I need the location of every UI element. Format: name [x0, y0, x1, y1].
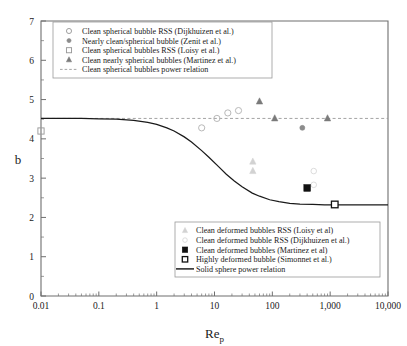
- data-point-filled-circle: [300, 125, 305, 130]
- data-point-light-triangle: [250, 158, 256, 164]
- x-tick-label: 1,000: [319, 301, 341, 311]
- data-point-filled-square: [304, 185, 311, 192]
- y-tick-label: 5: [29, 95, 34, 105]
- data-point-open-square-dark: [331, 201, 338, 208]
- legend-label: Clean spherical bubbles power relation: [82, 65, 208, 74]
- legend-marker-filled-square: [182, 247, 187, 252]
- solid-sphere-curve: [41, 118, 388, 204]
- data-point-filled-triangle: [324, 115, 330, 121]
- legend-bottom: Clean deformed bubbles RSS (Loisy et al)…: [175, 222, 380, 277]
- y-tick-label: 7: [29, 17, 34, 27]
- legend-label: Clean spherical bubbles RSS (Loisy et al…: [82, 46, 220, 55]
- data-point-open-circle: [199, 125, 205, 131]
- x-tick-label: 0.1: [93, 301, 105, 311]
- legend-label: Clean nearly spherical bubbles (Martinez…: [82, 56, 236, 65]
- legend-top: Clean spherical bubble RSS (Dijkhuizen e…: [53, 22, 272, 78]
- x-tick-label: 10: [210, 301, 220, 311]
- data-point-open-circle: [235, 107, 241, 113]
- y-tick-label: 0: [29, 292, 34, 302]
- legend-label: Clean deformed bubble RSS (Dijkhuizen et…: [196, 236, 350, 245]
- data-point-light-circle: [311, 182, 317, 188]
- y-tick-label: 6: [29, 56, 34, 66]
- legend-label: Nearly clean/spherical bubble (Zenit et …: [82, 37, 221, 46]
- data-lines: [41, 118, 388, 204]
- x-tick-label: 100: [265, 301, 280, 311]
- legend-label: Clean deformed bubbles (Martinez et al): [196, 246, 328, 255]
- y-axis-title: b: [15, 152, 22, 167]
- legend-label: Clean deformed bubbles RSS (Loisy et al): [196, 226, 333, 235]
- legend-label: Clean spherical bubble RSS (Dijkhuizen e…: [82, 27, 234, 36]
- y-tick-label: 1: [29, 252, 34, 262]
- chart-figure: 0.010.11101001,00010,00001234567bRepClea…: [0, 0, 407, 346]
- data-point-filled-triangle: [256, 98, 262, 104]
- legend-marker-filled-circle: [67, 39, 71, 43]
- y-tick-label: 3: [29, 174, 34, 184]
- legend-label: Solid sphere power relation: [196, 265, 285, 274]
- data-point-light-circle: [311, 168, 317, 174]
- data-point-light-triangle: [250, 167, 256, 173]
- y-tick-label: 4: [29, 134, 34, 144]
- x-tick-label: 10,000: [375, 301, 401, 311]
- x-axis-title: Rep: [205, 326, 224, 344]
- data-points: [38, 98, 338, 208]
- data-point-filled-triangle: [272, 115, 278, 121]
- x-tick-label: 1: [154, 301, 159, 311]
- legend-marker-open-square-dark: [182, 257, 187, 262]
- y-tick-label: 2: [29, 213, 34, 223]
- legend-label: Highly deformed bubble (Simonnet et al.): [196, 255, 332, 264]
- x-tick-label: 0.01: [33, 301, 50, 311]
- scatter-plot: 0.010.11101001,00010,00001234567bRepClea…: [0, 0, 407, 346]
- data-point-open-circle: [225, 110, 231, 116]
